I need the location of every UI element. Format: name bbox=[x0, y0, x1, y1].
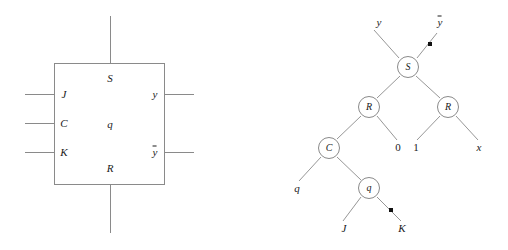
tree-edge-R1-C bbox=[337, 116, 361, 139]
tree-node-label-S: S bbox=[406, 62, 411, 72]
block-output-label-ybar: y bbox=[153, 147, 158, 158]
tree-edge-C-q bbox=[337, 157, 361, 180]
tree-edge-C-q2 bbox=[299, 157, 321, 181]
tree-edge-layer bbox=[254, 0, 508, 250]
tree-node-S: S bbox=[397, 56, 419, 78]
tree-edge-R1-0 bbox=[377, 116, 397, 140]
tree-edge-S-y bbox=[374, 30, 399, 58]
wire-top-S bbox=[110, 16, 111, 64]
tree-node-label-q: q bbox=[367, 183, 372, 193]
tree-node-label-R2: R bbox=[445, 102, 451, 112]
tree-leaf-K: K bbox=[398, 223, 405, 234]
block-internal-label-q: q bbox=[107, 119, 113, 130]
tree-leaf-q2: q bbox=[294, 183, 300, 194]
tree-node-q: q bbox=[358, 177, 380, 199]
wire-out-y bbox=[165, 94, 194, 95]
tree-leaf-x: x bbox=[477, 142, 482, 153]
tree-edge-S-R2 bbox=[416, 76, 440, 98]
tree-edge-S-ybar bbox=[417, 33, 437, 58]
figure-canvas: SqRJCKyy SRRCqyy01xqJK bbox=[0, 0, 508, 250]
tree-leaf-y: y bbox=[377, 17, 382, 28]
block-input-label-C: C bbox=[60, 118, 67, 129]
wire-out-ybar bbox=[165, 152, 194, 153]
block-output-label-ybar-overline-text: y bbox=[153, 147, 158, 158]
tree-leaf-one: 1 bbox=[413, 142, 419, 153]
tree-node-R1: R bbox=[358, 96, 380, 118]
wire-in-C bbox=[25, 123, 55, 124]
tree-leaf-ybar-overline-text: y bbox=[438, 17, 443, 28]
tree-edge-R2-1 bbox=[417, 116, 440, 140]
tree-node-R2: R bbox=[437, 96, 459, 118]
wire-in-J bbox=[25, 94, 55, 95]
inversion-dot-dot-K bbox=[389, 208, 393, 212]
block-internal-label-R: R bbox=[107, 163, 114, 174]
tree-edge-q-J bbox=[343, 197, 361, 221]
tree-leaf-J: J bbox=[342, 223, 347, 234]
tree-node-label-R1: R bbox=[366, 102, 372, 112]
inversion-dot-dot-ybar bbox=[428, 42, 432, 46]
wire-bot-R bbox=[110, 185, 111, 233]
tree-node-C: C bbox=[318, 137, 340, 159]
tree-node-label-C: C bbox=[326, 143, 333, 153]
tree-leaf-zero: 0 bbox=[395, 142, 401, 153]
block-internal-label-S: S bbox=[107, 73, 113, 84]
block-output-label-y: y bbox=[153, 89, 158, 100]
tree-leaf-ybar: y bbox=[438, 17, 443, 28]
block-input-label-J: J bbox=[62, 89, 67, 100]
tree-edge-R2-x bbox=[456, 116, 478, 140]
tree-edge-S-R1 bbox=[377, 76, 400, 98]
block-input-label-K: K bbox=[60, 147, 67, 158]
wire-in-K bbox=[25, 152, 55, 153]
